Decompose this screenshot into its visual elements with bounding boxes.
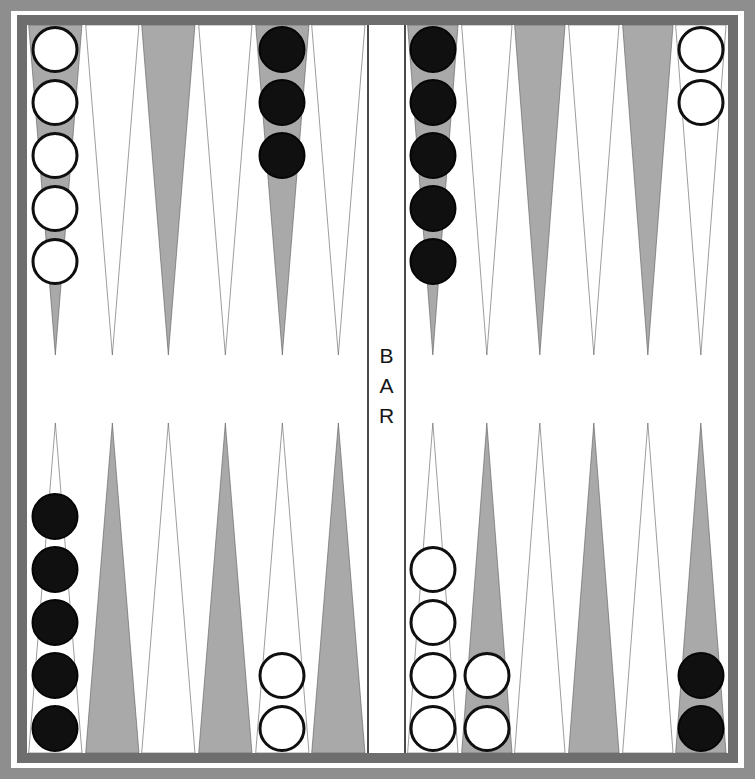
white-checker[interactable]	[32, 132, 79, 179]
white-checker[interactable]	[259, 705, 306, 752]
point-triangle-6	[310, 25, 367, 355]
black-checker[interactable]	[32, 599, 79, 646]
point-4[interactable]	[197, 25, 254, 355]
point-24[interactable]	[674, 423, 728, 753]
point-triangle-10	[567, 25, 621, 355]
bottom-right-quadrant	[406, 423, 728, 753]
bottom-left-quadrant	[27, 423, 367, 753]
point-16[interactable]	[197, 423, 254, 753]
black-checker[interactable]	[409, 79, 456, 126]
black-checker[interactable]	[32, 652, 79, 699]
point-22[interactable]	[567, 423, 621, 753]
bar-letter-a: A	[369, 371, 404, 401]
black-checker[interactable]	[259, 79, 306, 126]
top-right-quadrant	[406, 25, 728, 355]
point-7[interactable]	[406, 25, 460, 355]
white-checker[interactable]	[32, 26, 79, 73]
point-triangle-22	[567, 423, 621, 753]
white-checker[interactable]	[32, 79, 79, 126]
point-triangle-8	[460, 25, 514, 355]
bar-label: B A R	[369, 341, 404, 431]
black-checker[interactable]	[32, 705, 79, 752]
point-20[interactable]	[460, 423, 514, 753]
bar-letter-b: B	[369, 341, 404, 371]
white-checker[interactable]	[32, 238, 79, 285]
point-9[interactable]	[513, 25, 567, 355]
black-checker[interactable]	[32, 493, 79, 540]
white-checker[interactable]	[678, 26, 725, 73]
point-18[interactable]	[310, 423, 367, 753]
white-checker[interactable]	[409, 599, 456, 646]
bar[interactable]: B A R	[367, 25, 406, 753]
point-triangle-5	[254, 25, 311, 355]
point-triangle-11	[621, 25, 675, 355]
point-triangle-24	[674, 423, 728, 753]
point-triangle-12	[674, 25, 728, 355]
point-triangle-14	[84, 423, 141, 753]
point-triangle-21	[513, 423, 567, 753]
point-21[interactable]	[513, 423, 567, 753]
white-checker[interactable]	[409, 652, 456, 699]
point-triangle-15	[140, 423, 197, 753]
black-checker[interactable]	[678, 705, 725, 752]
point-triangle-16	[197, 423, 254, 753]
backgammon-board: B A R	[0, 0, 755, 779]
top-left-quadrant	[27, 25, 367, 355]
white-checker[interactable]	[409, 705, 456, 752]
point-2[interactable]	[84, 25, 141, 355]
point-10[interactable]	[567, 25, 621, 355]
point-17[interactable]	[254, 423, 311, 753]
point-1[interactable]	[27, 25, 84, 355]
point-15[interactable]	[140, 423, 197, 753]
white-checker[interactable]	[259, 652, 306, 699]
point-11[interactable]	[621, 25, 675, 355]
point-23[interactable]	[621, 423, 675, 753]
black-checker[interactable]	[678, 652, 725, 699]
point-triangle-17	[254, 423, 311, 753]
black-checker[interactable]	[259, 26, 306, 73]
white-checker[interactable]	[678, 79, 725, 126]
point-triangle-18	[310, 423, 367, 753]
black-checker[interactable]	[409, 238, 456, 285]
white-checker[interactable]	[463, 705, 510, 752]
white-checker[interactable]	[463, 652, 510, 699]
point-3[interactable]	[140, 25, 197, 355]
point-12[interactable]	[674, 25, 728, 355]
point-triangle-3	[140, 25, 197, 355]
white-checker[interactable]	[409, 546, 456, 593]
black-checker[interactable]	[409, 185, 456, 232]
white-checker[interactable]	[32, 185, 79, 232]
black-checker[interactable]	[409, 132, 456, 179]
point-14[interactable]	[84, 423, 141, 753]
point-5[interactable]	[254, 25, 311, 355]
point-triangle-2	[84, 25, 141, 355]
point-8[interactable]	[460, 25, 514, 355]
point-triangle-23	[621, 423, 675, 753]
point-triangle-4	[197, 25, 254, 355]
point-triangle-9	[513, 25, 567, 355]
point-19[interactable]	[406, 423, 460, 753]
black-checker[interactable]	[409, 26, 456, 73]
point-6[interactable]	[310, 25, 367, 355]
black-checker[interactable]	[32, 546, 79, 593]
bar-letter-r: R	[369, 401, 404, 431]
point-13[interactable]	[27, 423, 84, 753]
black-checker[interactable]	[259, 132, 306, 179]
point-triangle-20	[460, 423, 514, 753]
